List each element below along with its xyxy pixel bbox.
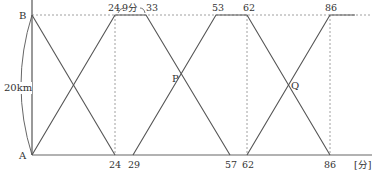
traveler-2-path-b: [133, 15, 330, 155]
top-tick-24: 24: [108, 2, 120, 13]
top-tick-86: 86: [325, 2, 337, 13]
point-b-label: B: [19, 10, 26, 21]
traveler-1-path: [32, 15, 230, 155]
distance-time-diagram: 20km 9分 B A P Q 24 33 53 62 86 24 29 57 …: [0, 0, 372, 175]
top-tick-33: 33: [146, 2, 158, 13]
distance-label: 20km: [4, 82, 33, 93]
duration-label: 9分: [122, 2, 138, 13]
point-p-label: P: [172, 73, 179, 84]
bottom-tick-24: 24: [109, 159, 121, 170]
bottom-tick-29: 29: [128, 159, 140, 170]
point-a-label: A: [18, 150, 27, 161]
top-tick-53: 53: [212, 2, 224, 13]
bottom-tick-62: 62: [242, 159, 254, 170]
unit-label: [分]: [354, 159, 371, 170]
bottom-tick-86: 86: [324, 159, 336, 170]
top-tick-62: 62: [243, 2, 255, 13]
bottom-tick-57: 57: [225, 159, 237, 170]
point-q-label: Q: [291, 80, 299, 91]
traveler-3-path: [247, 15, 355, 155]
